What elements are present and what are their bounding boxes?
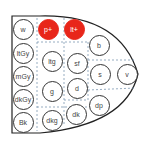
tone-circle-Bk: Bk: [13, 112, 34, 133]
tone-circle-dk: dk: [66, 104, 87, 125]
tone-circle-s: s: [90, 64, 111, 85]
tone-label: p+: [44, 26, 52, 33]
tone-circle-dkg: dkg: [42, 110, 63, 131]
tone-circle-lt-plus: lt+: [64, 19, 85, 40]
tone-circle-sf: sf: [67, 53, 88, 74]
tone-label: g: [50, 88, 54, 95]
tone-label: dp: [95, 102, 103, 109]
tone-label: b: [97, 42, 101, 49]
tone-label: Bk: [19, 119, 27, 126]
tone-label: ltg: [48, 58, 55, 65]
tone-label: dkGy: [15, 96, 31, 103]
tone-label: dkg: [46, 117, 57, 124]
tone-circle-dkGy: dkGy: [13, 89, 34, 110]
tone-circle-v: v: [117, 64, 138, 85]
tone-circle-w: w: [13, 19, 34, 40]
tone-label: s: [98, 71, 102, 78]
pccs-tone-diagram: wp+lt+bltGyltgsfmGysvgddkGydpBkdkgdk: [0, 0, 145, 146]
tone-circle-p-plus: p+: [38, 19, 59, 40]
tone-circle-d: d: [67, 78, 88, 99]
tone-circle-b: b: [89, 35, 110, 56]
tone-label: d: [75, 85, 79, 92]
tone-circle-dp: dp: [89, 95, 110, 116]
tone-circle-ltg: ltg: [42, 51, 63, 72]
tone-circle-mGy: mGy: [13, 66, 34, 87]
tone-circle-ltGy: ltGy: [13, 43, 34, 64]
tone-label: mGy: [16, 73, 31, 80]
tone-label: v: [125, 71, 129, 78]
tone-label: lt+: [70, 26, 78, 33]
tone-circle-g: g: [42, 81, 63, 102]
tone-label: ltGy: [17, 50, 29, 57]
tone-label: w: [20, 26, 25, 33]
tone-label: sf: [74, 60, 79, 67]
tone-label: dk: [72, 111, 79, 118]
